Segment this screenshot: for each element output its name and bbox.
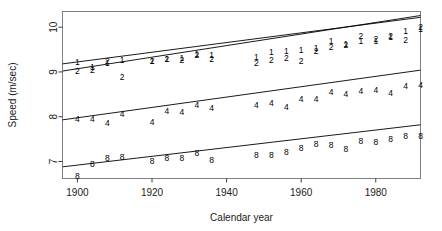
- data-point-2: 2: [179, 55, 184, 65]
- data-point-4: 4: [344, 89, 349, 99]
- y-axis-title: Speed (m/sec): [7, 62, 18, 127]
- data-point-4: 4: [105, 118, 110, 128]
- data-point-2: 2: [165, 54, 170, 64]
- axis-layer: [59, 12, 421, 183]
- data-point-8: 8: [75, 171, 80, 181]
- data-point-4: 4: [284, 102, 289, 112]
- data-point-4: 4: [120, 109, 125, 119]
- data-point-4: 4: [418, 80, 423, 90]
- data-point-8: 8: [388, 134, 393, 144]
- data-point-8: 8: [105, 153, 110, 163]
- data-point-8: 8: [165, 153, 170, 163]
- data-point-4: 4: [388, 88, 393, 98]
- x-axis-title: Calendar year: [210, 212, 273, 223]
- data-point-2: 2: [105, 56, 110, 66]
- data-point-4: 4: [269, 98, 274, 108]
- data-point-4: 4: [194, 100, 199, 110]
- data-point-1: 1: [120, 55, 125, 65]
- data-point-1: 1: [299, 45, 304, 55]
- data-point-8: 8: [373, 137, 378, 147]
- data-point-2: 2: [90, 65, 95, 75]
- data-point-8: 8: [403, 131, 408, 141]
- y-axis-tick-label: 8: [48, 113, 59, 119]
- data-point-4: 4: [150, 117, 155, 127]
- data-point-4: 4: [373, 85, 378, 95]
- data-point-8: 8: [120, 152, 125, 162]
- data-point-2: 2: [299, 56, 304, 66]
- x-axis-tick-label: 1980: [365, 187, 388, 198]
- data-point-2: 2: [403, 35, 408, 45]
- x-axis-tick-label: 1940: [215, 187, 238, 198]
- data-point-8: 8: [344, 144, 349, 154]
- data-point-2: 2: [358, 31, 363, 41]
- data-point-layer: 1111111111111111111112222222222222222222…: [75, 22, 423, 181]
- data-point-2: 2: [194, 50, 199, 60]
- regression-line-2: [63, 16, 421, 72]
- data-point-2: 2: [314, 46, 319, 56]
- data-point-2: 2: [284, 53, 289, 63]
- data-point-4: 4: [358, 86, 363, 96]
- data-point-2: 2: [209, 54, 214, 64]
- data-point-2: 2: [75, 66, 80, 76]
- data-point-8: 8: [314, 139, 319, 149]
- data-point-2: 2: [269, 55, 274, 65]
- data-point-8: 8: [209, 155, 214, 165]
- y-axis-tick-label: 10: [48, 21, 59, 33]
- data-point-8: 8: [194, 148, 199, 158]
- data-point-4: 4: [90, 114, 95, 124]
- data-point-8: 8: [284, 147, 289, 157]
- regression-line-layer: [63, 16, 421, 167]
- data-point-8: 8: [299, 143, 304, 153]
- data-point-4: 4: [179, 107, 184, 117]
- data-point-8: 8: [329, 140, 334, 150]
- scatter-plot-canvas: 1111111111111111111112222222222222222222…: [0, 0, 442, 231]
- data-point-2: 2: [120, 72, 125, 82]
- y-axis-tick-label: 7: [48, 158, 59, 164]
- regression-line-8: [63, 125, 421, 167]
- data-point-8: 8: [254, 150, 259, 160]
- data-point-4: 4: [314, 94, 319, 104]
- data-point-2: 2: [388, 31, 393, 41]
- data-point-2: 2: [418, 22, 423, 32]
- data-point-8: 8: [179, 153, 184, 163]
- x-axis-tick-label: 1960: [290, 187, 313, 198]
- data-point-4: 4: [329, 87, 334, 97]
- data-point-4: 4: [165, 106, 170, 116]
- data-point-4: 4: [254, 100, 259, 110]
- data-point-4: 4: [209, 103, 214, 113]
- data-point-4: 4: [75, 114, 80, 124]
- x-axis-tick-label: 1920: [141, 187, 164, 198]
- y-axis-tick-label: 9: [48, 69, 59, 75]
- data-point-8: 8: [269, 150, 274, 160]
- data-point-2: 2: [373, 34, 378, 44]
- data-point-2: 2: [150, 56, 155, 66]
- data-point-8: 8: [150, 156, 155, 166]
- data-point-8: 8: [358, 136, 363, 146]
- chart-figure: 1111111111111111111112222222222222222222…: [0, 0, 442, 231]
- data-point-4: 4: [299, 94, 304, 104]
- data-point-4: 4: [403, 81, 408, 91]
- regression-line-4: [63, 70, 421, 120]
- data-point-2: 2: [344, 40, 349, 50]
- data-point-2: 2: [329, 42, 334, 52]
- data-point-8: 8: [418, 131, 423, 141]
- data-point-2: 2: [254, 58, 259, 68]
- data-point-8: 8: [90, 159, 95, 169]
- x-axis-tick-label: 1900: [66, 187, 89, 198]
